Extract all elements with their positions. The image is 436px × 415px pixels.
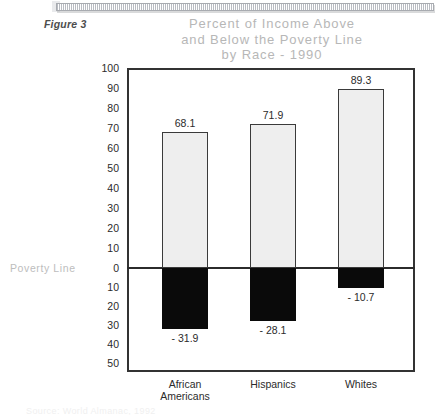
poverty-line-annotation: Poverty Line: [10, 262, 76, 274]
bar-value-label-below: - 10.7: [326, 291, 396, 303]
chart-title: Percent of Income Above and Below the Po…: [128, 16, 416, 63]
bar-below-poverty-line: [162, 268, 208, 329]
bar-value-label-below: - 31.9: [150, 332, 220, 344]
x-axis-category-label: Hispanics: [223, 378, 323, 390]
y-axis-tick-label: 50: [73, 163, 119, 174]
bar-value-label-above: 89.3: [326, 74, 396, 86]
chart-title-line-1: Percent of Income Above: [128, 16, 416, 32]
bar-above-poverty-line: [338, 89, 384, 268]
y-axis-tick-label: 40: [73, 339, 119, 350]
y-axis-tick-label: 90: [73, 83, 119, 94]
y-axis-tick-label: 30: [73, 203, 119, 214]
y-axis-tick-label: 100: [73, 63, 119, 74]
x-axis-category-label-line: Whites: [311, 378, 411, 390]
y-axis-tick-label: 10: [73, 282, 119, 293]
x-axis-category-label-line: African: [135, 378, 235, 390]
x-axis-category-label-line: Americans: [135, 390, 235, 402]
y-axis-tick-label: 30: [73, 320, 119, 331]
bar-above-poverty-line: [162, 132, 208, 268]
bar-value-label-above: 71.9: [238, 109, 308, 121]
y-axis-tick-label: 60: [73, 143, 119, 154]
y-axis-tick-label: 0: [73, 263, 119, 274]
y-axis-tick-label: 40: [73, 183, 119, 194]
source-note: Source: World Almanac, 1992: [26, 406, 156, 415]
y-axis-tick-label: 20: [73, 223, 119, 234]
y-axis-tick-label: 20: [73, 301, 119, 312]
chart-page: Figure 3 Percent of Income Above and Bel…: [0, 0, 436, 415]
chart-title-line-3: by Race - 1990: [128, 47, 416, 63]
bar-above-poverty-line: [250, 124, 296, 268]
chart-title-line-2: and Below the Poverty Line: [128, 32, 416, 48]
bar-below-poverty-line: [338, 268, 384, 288]
bar-value-label-above: 68.1: [150, 117, 220, 129]
y-axis-tick-label: 80: [73, 103, 119, 114]
bar-value-label-below: - 28.1: [238, 324, 308, 336]
x-axis-category-label: AfricanAmericans: [135, 378, 235, 402]
y-axis-tick-label: 50: [73, 358, 119, 369]
y-axis-tick-label: 70: [73, 123, 119, 134]
bar-below-poverty-line: [250, 268, 296, 321]
x-axis-category-label: Whites: [311, 378, 411, 390]
y-axis-tick-labels: 10090807060504030201001020304050: [73, 0, 119, 415]
y-axis-tick-label: 10: [73, 243, 119, 254]
x-axis-category-label-line: Hispanics: [223, 378, 323, 390]
